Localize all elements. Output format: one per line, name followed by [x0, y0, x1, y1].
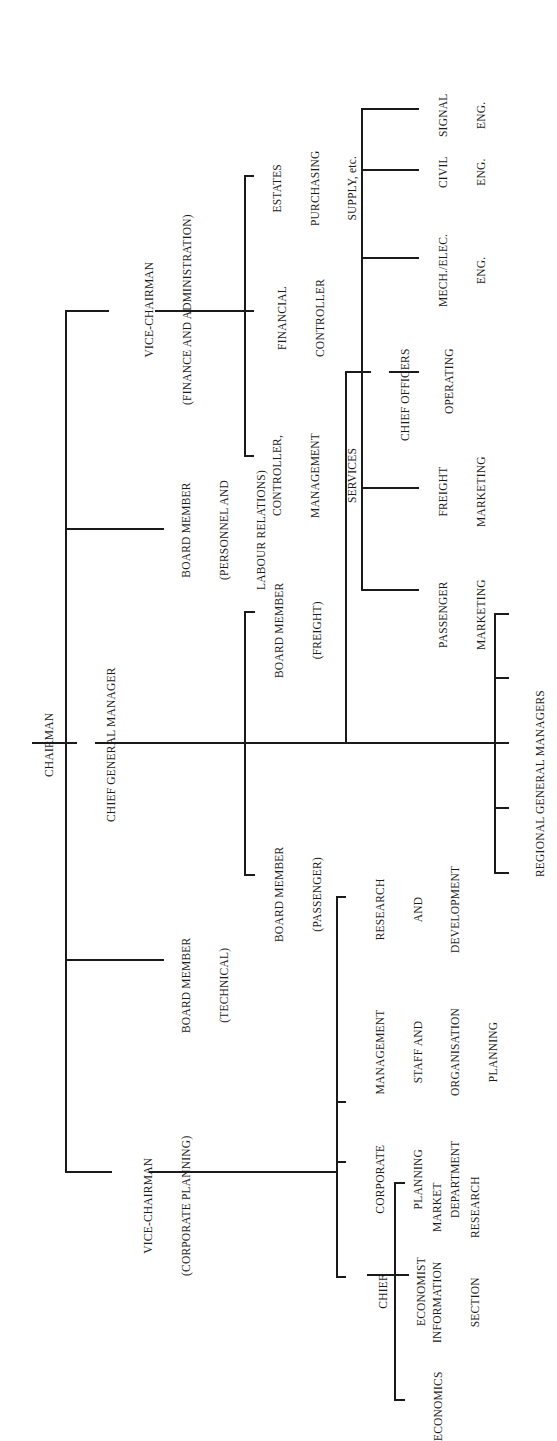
node-vice-chairman-finance: VICE-CHAIRMAN (FINANCE AND ADMINISTRATIO… [118, 214, 206, 405]
node-regional-general-managers: REGIONAL GENERAL MANAGERS [509, 690, 557, 877]
node-research-and-development: RESEARCH AND DEVELOPMENT [349, 866, 474, 953]
node-civil-eng: CIVIL ENG. [412, 156, 500, 188]
node-chairman: CHAIRMAN [18, 713, 68, 777]
node-board-member-passenger: BOARD MEMBER (PASSENGER) [248, 847, 336, 942]
node-vice-chairman-corporate: VICE-CHAIRMAN (CORPORATE PLANNING) [117, 1136, 205, 1276]
node-passenger-marketing: PASSENGER MARKETING [412, 579, 500, 650]
node-signal-eng: SIGNAL ENG. [412, 94, 500, 137]
node-management-staff-planning: MANAGEMENT STAFF AND ORGANISATION PLANNI… [349, 1008, 512, 1096]
node-freight-marketing: FREIGHT MARKETING [412, 456, 500, 527]
node-board-member-technical: BOARD MEMBER (TECHNICAL) [155, 938, 243, 1033]
node-chief-general-manager: CHIEF GENERAL MANAGER [80, 667, 130, 822]
node-information-section: INFORMATION SECTION [406, 1262, 494, 1343]
node-mech-elec-eng: MECH./ELEC. ENG. [412, 234, 500, 307]
node-operating: OPERATING [418, 348, 468, 414]
node-economics: ECONOMICS [407, 1371, 457, 1441]
node-market-research: MARKET RESEARCH [406, 1176, 494, 1238]
node-estates-purchasing-supply: ESTATES PURCHASING SUPPLY, etc. [246, 151, 371, 227]
node-controller-management-services: CONTROLLER, MANAGEMENT SERVICES [246, 433, 371, 518]
node-board-member-freight: BOARD MEMBER (FREIGHT) [248, 583, 336, 678]
node-chief-officers: CHIEF OFFICERS [374, 348, 424, 441]
node-financial-controller: FINANCIAL CONTROLLER [251, 279, 339, 357]
